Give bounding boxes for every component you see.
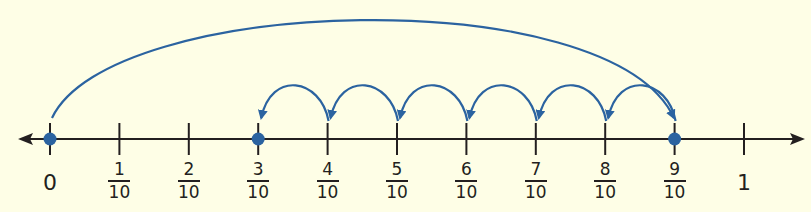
fraction-numerator: 7 bbox=[528, 161, 543, 178]
fraction-denominator: 10 bbox=[664, 184, 686, 201]
jump-arc-0-to-9-10 bbox=[52, 20, 674, 118]
fraction-denominator: 10 bbox=[456, 184, 478, 201]
fraction-numerator: 8 bbox=[598, 161, 613, 178]
fraction-numerator: 2 bbox=[181, 161, 196, 178]
tick-label-fraction: 710 bbox=[525, 161, 547, 201]
tick-label-fraction: 310 bbox=[247, 161, 269, 201]
tick-label-whole: 1 bbox=[737, 172, 751, 194]
backward-jump-arc bbox=[400, 85, 467, 121]
fraction-denominator: 10 bbox=[386, 184, 408, 201]
plotted-point-dot bbox=[252, 133, 265, 146]
backward-jump-arc bbox=[469, 85, 536, 121]
fraction-numerator: 9 bbox=[667, 161, 682, 178]
tick-label-fraction: 610 bbox=[455, 161, 477, 201]
fraction-denominator: 10 bbox=[178, 184, 200, 201]
backward-jump-arc bbox=[539, 85, 606, 121]
plotted-point-dot bbox=[44, 133, 57, 146]
number-line-diagram: 01102103104105106107108109101 bbox=[0, 0, 811, 212]
fraction-denominator: 10 bbox=[109, 184, 131, 201]
backward-jump-arc bbox=[261, 85, 328, 121]
fraction-numerator: 3 bbox=[251, 161, 266, 178]
backward-jump-arc bbox=[331, 85, 398, 121]
tick-label-whole: 0 bbox=[43, 172, 57, 194]
backward-jumps bbox=[261, 85, 675, 121]
plotted-point-dot bbox=[668, 133, 681, 146]
fraction-numerator: 6 bbox=[459, 161, 474, 178]
fraction-denominator: 10 bbox=[594, 184, 616, 201]
fraction-denominator: 10 bbox=[317, 184, 339, 201]
tick-label-fraction: 110 bbox=[108, 161, 130, 201]
tick-label-fraction: 210 bbox=[178, 161, 200, 201]
fraction-numerator: 5 bbox=[390, 161, 405, 178]
tick-label-fraction: 810 bbox=[594, 161, 616, 201]
tick-label-fraction: 510 bbox=[386, 161, 408, 201]
fraction-numerator: 1 bbox=[112, 161, 127, 178]
tick-label-fraction: 410 bbox=[317, 161, 339, 201]
tick-label-fraction: 910 bbox=[664, 161, 686, 201]
fraction-denominator: 10 bbox=[247, 184, 269, 201]
fraction-denominator: 10 bbox=[525, 184, 547, 201]
fraction-numerator: 4 bbox=[320, 161, 335, 178]
